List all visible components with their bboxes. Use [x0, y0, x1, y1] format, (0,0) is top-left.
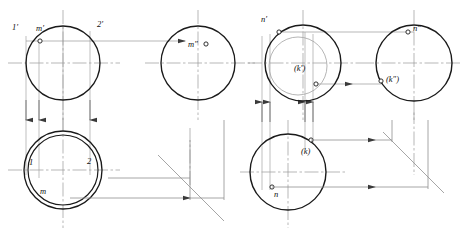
- label-k-prime: (k′): [294, 64, 305, 73]
- right-side-centerlines: [360, 10, 462, 120]
- point-m-double-prime-marker: [204, 42, 208, 46]
- label-m-prime: m′: [36, 24, 44, 33]
- right-miter-construction: [272, 120, 444, 193]
- label-2: 2: [87, 157, 91, 166]
- label-1-prime: 1′: [12, 23, 18, 32]
- label-n-prime: n′: [261, 15, 267, 24]
- miter-line-45: [158, 155, 224, 221]
- left-vertical-projectors: [26, 26, 90, 178]
- label-k-double-prime: (k″): [386, 75, 399, 84]
- point-n-double-prime-marker: [406, 30, 410, 34]
- left-direction-arrows: [26, 100, 90, 120]
- label-m-double-prime: m″: [188, 40, 198, 49]
- projection-drawing-svg: [0, 0, 462, 235]
- point-n-prime-marker: [277, 30, 281, 34]
- point-m-prime-marker: [38, 39, 42, 43]
- drawing-canvas: 1′ m′ 2′ m″ 1 2 m n′ (k′) n″ (k″) (k) n: [0, 0, 462, 235]
- label-m: m: [40, 187, 46, 196]
- label-2-prime: 2′: [97, 20, 103, 29]
- point-k-prime-marker: [314, 82, 318, 86]
- left-miter-construction: [70, 120, 224, 221]
- label-n-double-prime: n″: [413, 24, 421, 33]
- label-k: (k): [301, 147, 310, 156]
- right-direction-arrows: [262, 102, 313, 122]
- label-1: 1: [29, 158, 33, 167]
- label-n: n: [274, 190, 278, 199]
- right-top-centerlines: [240, 120, 345, 228]
- point-k-double-prime-marker: [379, 79, 383, 83]
